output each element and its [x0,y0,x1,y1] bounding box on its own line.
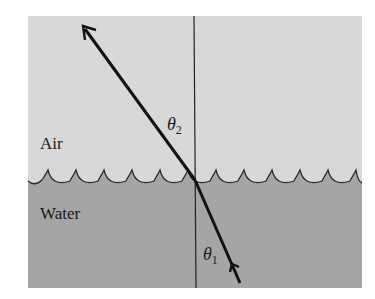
theta2-subscript: 2 [176,123,182,137]
theta1-symbol: θ [203,244,212,264]
theta2-symbol: θ [167,114,176,134]
air-label: Air [40,134,63,153]
theta1-subscript: 1 [212,253,218,267]
water-label: Water [40,204,80,223]
refraction-diagram: Air Water θ2 θ1 [0,0,375,299]
